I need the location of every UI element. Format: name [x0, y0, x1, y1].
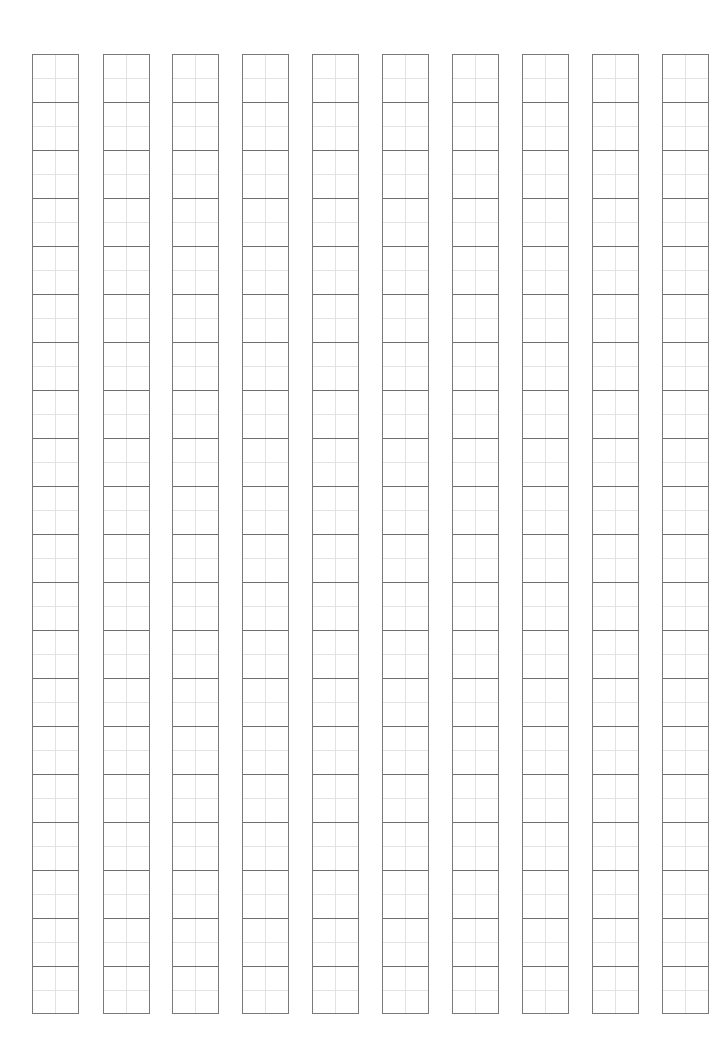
grid-column-5: [312, 54, 359, 1014]
grid-column-1: [32, 54, 79, 1014]
grid-column-9: [592, 54, 639, 1014]
grid-column-6: [382, 54, 429, 1014]
grid-column-10: [662, 54, 709, 1014]
grid-column-4: [242, 54, 289, 1014]
grid-column-7: [452, 54, 499, 1014]
grid-paper-sheet: [0, 0, 720, 1057]
grid-column-3: [172, 54, 219, 1014]
grid-column-2: [103, 54, 150, 1014]
grid-column-8: [522, 54, 569, 1014]
